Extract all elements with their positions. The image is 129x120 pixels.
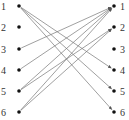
left-node-dot-3 <box>17 47 21 51</box>
left-label-4: 4 <box>1 65 6 76</box>
left-label-2: 2 <box>1 22 6 33</box>
right-label-6: 6 <box>120 107 125 118</box>
left-node-dot-6 <box>17 110 21 114</box>
right-label-5: 5 <box>120 86 125 97</box>
right-label-2: 2 <box>120 22 125 33</box>
right-node-dot-2 <box>112 25 116 29</box>
left-label-6: 6 <box>1 107 6 118</box>
left-label-1: 1 <box>1 1 6 12</box>
right-node-dot-6 <box>112 110 116 114</box>
left-label-5: 5 <box>1 86 6 97</box>
right-node-dot-3 <box>112 47 116 51</box>
right-node-dot-1 <box>112 4 116 8</box>
right-node-dot-5 <box>112 89 116 93</box>
right-label-4: 4 <box>120 65 125 76</box>
mapping-diagram: 1 2 3 4 5 6 1 2 3 4 5 6 <box>0 0 129 120</box>
right-nodes: 1 2 3 4 5 6 <box>120 1 125 118</box>
right-node-dot-4 <box>112 68 116 72</box>
left-label-3: 3 <box>1 44 6 55</box>
edges-group <box>21 7 112 110</box>
left-node-dot-4 <box>17 68 21 72</box>
right-label-3: 3 <box>120 44 125 55</box>
right-label-1: 1 <box>120 1 125 12</box>
left-node-dot-1 <box>17 4 21 8</box>
left-node-dot-2 <box>17 25 21 29</box>
left-node-dot-5 <box>17 89 21 93</box>
left-nodes: 1 2 3 4 5 6 <box>1 1 6 118</box>
edge-6-to-2 <box>21 29 112 110</box>
